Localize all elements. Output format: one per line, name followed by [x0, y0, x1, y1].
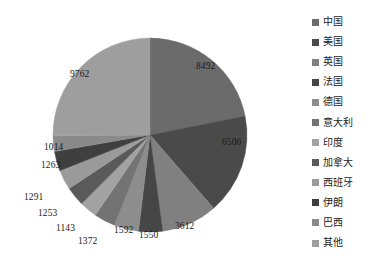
legend-item[interactable]: 中国: [312, 12, 378, 32]
pie-data-label: 1263: [41, 161, 60, 171]
pie-chart-svg: [0, 0, 300, 264]
pie-data-label: 1592: [114, 226, 133, 236]
pie-data-label: 6506: [222, 138, 241, 148]
legend-swatch-icon: [312, 159, 319, 166]
legend-item-label: 中国: [323, 17, 343, 27]
legend-item[interactable]: 巴西: [312, 213, 378, 233]
legend-swatch-icon: [312, 39, 319, 46]
legend-swatch-icon: [312, 139, 319, 146]
legend-item[interactable]: 德国: [312, 92, 378, 112]
chart-legend: 中国美国英国法国德国意大利印度加拿大西班牙伊朗巴西其他: [312, 12, 378, 256]
pie-data-label: 9762: [70, 70, 89, 80]
legend-item-label: 其他: [323, 238, 343, 248]
pie-chart-figure: 8492650636121550159213721143125312911263…: [0, 0, 379, 264]
legend-item[interactable]: 西班牙: [312, 173, 378, 193]
pie-data-label: 1550: [139, 231, 158, 241]
pie-data-label: 1253: [38, 209, 57, 219]
legend-item[interactable]: 伊朗: [312, 193, 378, 213]
legend-item[interactable]: 美国: [312, 32, 378, 52]
legend-item[interactable]: 其他: [312, 233, 378, 253]
legend-item-label: 印度: [323, 138, 343, 148]
pie-data-label: 1014: [44, 143, 63, 153]
pie-slice-group: [53, 38, 247, 232]
legend-item[interactable]: 印度: [312, 133, 378, 153]
legend-item[interactable]: 意大利: [312, 112, 378, 132]
legend-item-label: 法国: [323, 77, 343, 87]
legend-swatch-icon: [312, 219, 319, 226]
legend-item[interactable]: 英国: [312, 52, 378, 72]
pie-data-label: 1143: [56, 224, 75, 234]
pie-chart-plot-area: 8492650636121550159213721143125312911263…: [0, 0, 300, 264]
pie-data-label: 8492: [196, 62, 215, 72]
legend-item-label: 美国: [323, 37, 343, 47]
pie-slice[interactable]: [53, 38, 150, 136]
legend-swatch-icon: [312, 99, 319, 106]
legend-item-label: 西班牙: [323, 178, 353, 188]
legend-swatch-icon: [312, 119, 319, 126]
legend-swatch-icon: [312, 79, 319, 86]
legend-item-label: 伊朗: [323, 198, 343, 208]
legend-item-label: 加拿大: [323, 158, 353, 168]
pie-data-label: 3612: [175, 222, 194, 232]
legend-item[interactable]: 加拿大: [312, 153, 378, 173]
legend-swatch-icon: [312, 179, 319, 186]
legend-item[interactable]: 法国: [312, 72, 378, 92]
legend-item-label: 巴西: [323, 218, 343, 228]
legend-item-label: 德国: [323, 97, 343, 107]
legend-swatch-icon: [312, 19, 319, 26]
pie-data-label: 1291: [24, 193, 43, 203]
legend-item-label: 意大利: [323, 118, 353, 128]
pie-data-label: 1372: [78, 237, 97, 247]
legend-swatch-icon: [312, 199, 319, 206]
legend-item-label: 英国: [323, 57, 343, 67]
legend-swatch-icon: [312, 59, 319, 66]
legend-swatch-icon: [312, 240, 319, 247]
